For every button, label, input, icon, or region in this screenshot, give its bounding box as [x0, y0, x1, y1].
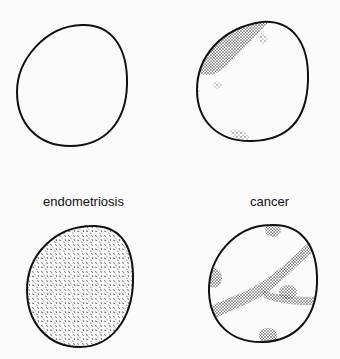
ovary-outline-normal [17, 25, 127, 146]
diagram-canvas [0, 0, 340, 359]
panel-endometriosis [27, 226, 133, 347]
ovary-outline-endometriosis [27, 226, 133, 347]
branching-stipple-bands [206, 223, 320, 344]
label-endometriosis: endometriosis [43, 195, 124, 209]
stipple-regions [195, 20, 270, 141]
ovary-outline-partial [197, 22, 308, 141]
label-cancer: cancer [250, 195, 289, 209]
panel-cancer [206, 223, 320, 344]
panel-partial [195, 20, 308, 141]
panel-normal [17, 25, 127, 146]
